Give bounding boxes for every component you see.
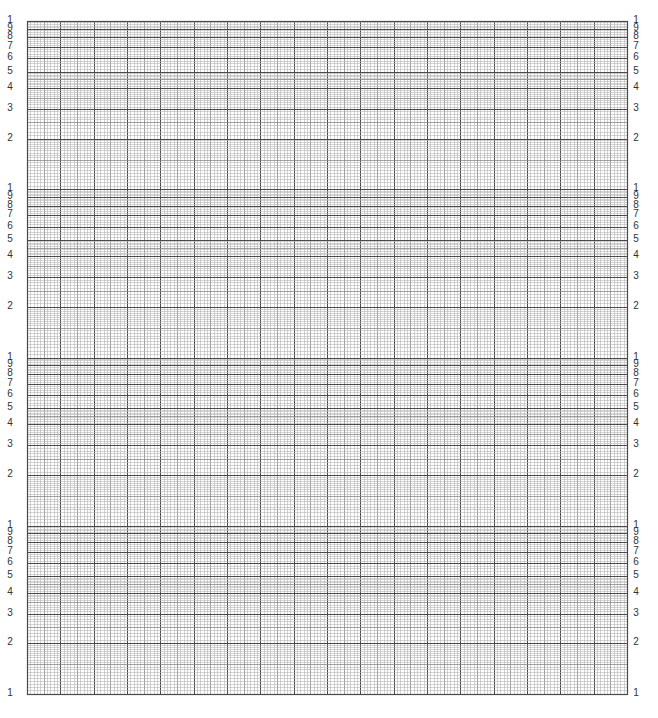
left-axis-label: 7 bbox=[5, 378, 15, 388]
right-axis-label: 3 bbox=[631, 103, 641, 113]
right-axis-label: 7 bbox=[631, 378, 641, 388]
right-axis-label: 4 bbox=[631, 82, 641, 92]
right-axis-label: 5 bbox=[631, 234, 641, 244]
right-axis-label: 5 bbox=[631, 570, 641, 580]
left-axis-label: 4 bbox=[5, 250, 15, 260]
left-axis-label: 7 bbox=[5, 209, 15, 219]
left-axis-label: 2 bbox=[5, 637, 15, 647]
semi-log-graph-paper bbox=[0, 0, 658, 718]
right-axis-label: 2 bbox=[631, 133, 641, 143]
right-axis-label: 7 bbox=[631, 41, 641, 51]
right-axis-label: 3 bbox=[631, 608, 641, 618]
right-axis-label: 5 bbox=[631, 66, 641, 76]
right-axis-label: 3 bbox=[631, 271, 641, 281]
left-axis-label: 6 bbox=[5, 389, 15, 399]
right-axis-label: 6 bbox=[631, 557, 641, 567]
right-axis-label: 4 bbox=[631, 418, 641, 428]
left-axis-label: 3 bbox=[5, 608, 15, 618]
right-axis-label: 7 bbox=[631, 209, 641, 219]
right-axis-label: 6 bbox=[631, 52, 641, 62]
left-axis-label: 5 bbox=[5, 402, 15, 412]
left-axis-label: 4 bbox=[5, 587, 15, 597]
left-axis-label: 6 bbox=[5, 52, 15, 62]
right-axis-label: 3 bbox=[631, 439, 641, 449]
right-axis-label: 6 bbox=[631, 221, 641, 231]
right-axis-label: 6 bbox=[631, 389, 641, 399]
right-axis-label: 2 bbox=[631, 637, 641, 647]
right-axis-label: 4 bbox=[631, 587, 641, 597]
left-axis-label: 4 bbox=[5, 418, 15, 428]
left-axis-label: 5 bbox=[5, 234, 15, 244]
right-axis-label: 7 bbox=[631, 546, 641, 556]
left-axis-label: 1 bbox=[5, 688, 15, 698]
left-axis-label: 7 bbox=[5, 41, 15, 51]
right-axis-label: 4 bbox=[631, 250, 641, 260]
left-axis-label: 6 bbox=[5, 221, 15, 231]
right-axis-label: 2 bbox=[631, 301, 641, 311]
left-axis-label: 2 bbox=[5, 301, 15, 311]
left-axis-label: 5 bbox=[5, 570, 15, 580]
left-axis-label: 3 bbox=[5, 271, 15, 281]
left-axis-label: 3 bbox=[5, 103, 15, 113]
right-axis-label: 1 bbox=[631, 688, 641, 698]
right-axis-label: 5 bbox=[631, 402, 641, 412]
right-axis-label: 2 bbox=[631, 469, 641, 479]
left-axis-label: 4 bbox=[5, 82, 15, 92]
left-axis-label: 2 bbox=[5, 133, 15, 143]
left-axis-label: 5 bbox=[5, 66, 15, 76]
left-axis-label: 6 bbox=[5, 557, 15, 567]
left-axis-label: 3 bbox=[5, 439, 15, 449]
left-axis-label: 2 bbox=[5, 469, 15, 479]
left-axis-label: 7 bbox=[5, 546, 15, 556]
